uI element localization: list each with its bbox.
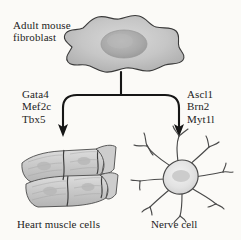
cardiac-factors-label: Gata4 Mef2c Tbx5 <box>22 88 51 125</box>
neuronal-factors-label: Ascl1 Brn2 Myt1l <box>187 88 214 125</box>
neuron-cell <box>131 126 233 223</box>
source-cell-label: Adult mouse fibroblast <box>13 19 71 44</box>
cardiomyocyte-cells <box>22 145 118 207</box>
branch-connector <box>63 72 179 127</box>
nerve-cell-caption: Nerve cell <box>151 218 198 230</box>
fibroblast-cell <box>64 15 184 72</box>
reprogramming-figure: Adult mouse fibroblast Gata4 Mef2c Tbx5 … <box>0 0 241 240</box>
neuron-nucleus <box>172 170 190 182</box>
heart-muscle-caption: Heart muscle cells <box>17 218 100 230</box>
